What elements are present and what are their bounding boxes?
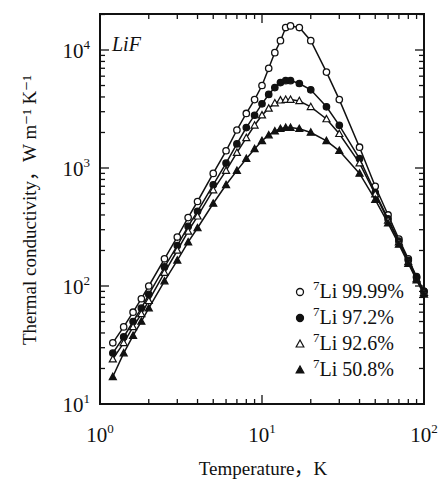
data-point xyxy=(308,87,314,93)
legend-entry: 7Li 99.99% xyxy=(313,278,404,302)
data-point xyxy=(265,131,272,137)
data-point xyxy=(272,84,278,90)
data-point xyxy=(272,49,278,55)
data-point xyxy=(259,101,265,107)
data-point xyxy=(146,283,152,289)
chart-container: LiF 100101102 101102103104 Temperature，K… xyxy=(0,0,445,487)
data-point xyxy=(336,122,342,128)
legend-entry: 7Li 97.2% xyxy=(313,304,394,328)
y-tick-label: 101 xyxy=(63,391,91,417)
data-point xyxy=(287,77,293,83)
data-point xyxy=(243,110,249,116)
data-point xyxy=(251,112,257,118)
legend-marker xyxy=(297,315,304,322)
data-point xyxy=(110,340,116,346)
x-tick-label: 102 xyxy=(410,421,438,447)
legend-marker xyxy=(296,340,304,347)
data-point xyxy=(266,65,272,71)
data-point xyxy=(223,160,229,166)
data-point xyxy=(174,234,180,240)
chart-svg: LiF 100101102 101102103104 Temperature，K… xyxy=(0,0,445,487)
x-axis-title: Temperature，K xyxy=(199,458,328,479)
data-point xyxy=(223,148,229,154)
data-point xyxy=(185,214,191,220)
y-tick-label: 104 xyxy=(63,37,91,63)
y-tick-label: 103 xyxy=(63,155,91,181)
data-point xyxy=(323,104,329,110)
data-point xyxy=(308,37,314,43)
data-point xyxy=(323,137,330,143)
data-point xyxy=(120,324,126,330)
data-point xyxy=(120,349,127,355)
data-point xyxy=(277,37,283,43)
data-point xyxy=(138,296,144,302)
legend-marker xyxy=(297,289,304,296)
legend-entry: 7Li 50.8% xyxy=(313,356,394,380)
x-tick-label: 100 xyxy=(86,421,114,447)
data-point xyxy=(266,91,272,97)
data-point xyxy=(234,127,240,133)
data-point xyxy=(356,144,362,150)
data-point xyxy=(323,69,329,75)
data-point xyxy=(109,373,116,379)
y-axis-title: Thermal conductivity，W m⁻¹ K⁻¹ xyxy=(19,75,40,345)
data-point xyxy=(161,256,167,262)
x-tick-label: 101 xyxy=(248,421,276,447)
legend-marker xyxy=(296,366,304,373)
data-point xyxy=(234,141,240,147)
data-point xyxy=(174,257,181,263)
data-point xyxy=(130,309,136,315)
data-point xyxy=(336,96,342,102)
data-point xyxy=(251,96,257,102)
data-point xyxy=(287,23,293,29)
data-point xyxy=(259,82,265,88)
annotation-lif: LiF xyxy=(111,33,142,55)
data-point xyxy=(210,170,216,176)
data-point xyxy=(194,198,200,204)
data-point xyxy=(296,80,302,86)
legend-entry: 7Li 92.6% xyxy=(313,330,394,354)
data-point xyxy=(296,24,302,30)
data-point xyxy=(243,124,249,130)
y-tick-label: 102 xyxy=(63,273,91,299)
